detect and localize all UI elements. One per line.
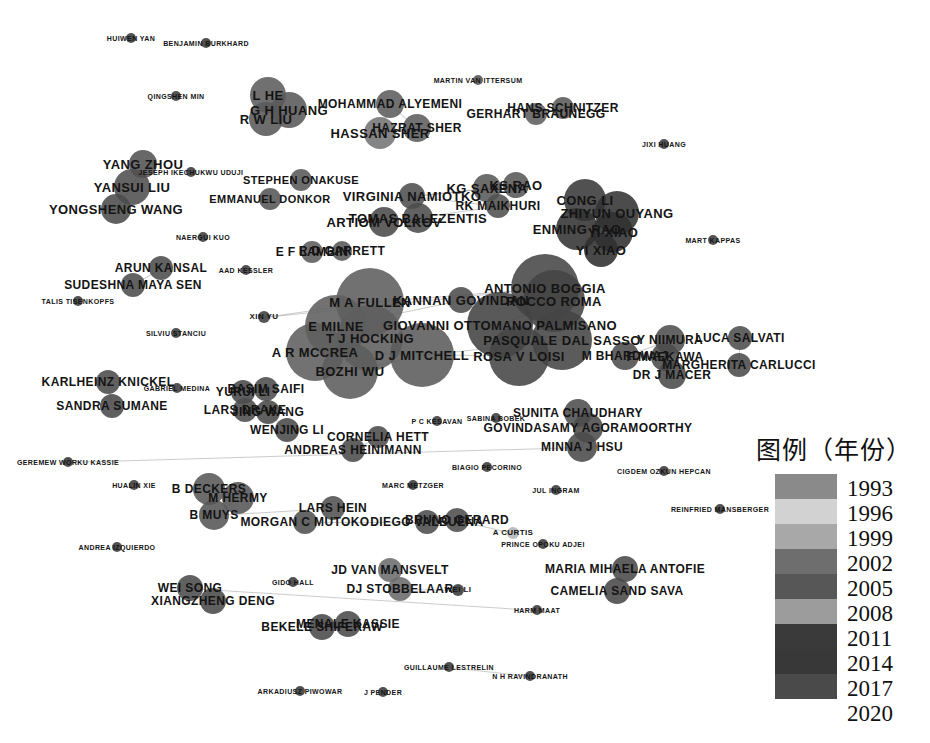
- network-map-canvas: HUIWEN YANBENJAMIN BURKHARDMARTIN VAN IT…: [0, 0, 930, 743]
- network-node[interactable]: [507, 527, 519, 539]
- network-node[interactable]: [171, 328, 181, 338]
- network-node[interactable]: [473, 75, 483, 85]
- network-node[interactable]: [73, 296, 83, 306]
- legend: 图例（年份） 199319961999200220052008201120142…: [744, 430, 924, 726]
- legend-swatch: [775, 524, 837, 549]
- network-node[interactable]: [126, 33, 136, 43]
- legend-color-bar: [775, 474, 837, 726]
- network-node[interactable]: [525, 103, 547, 125]
- network-node[interactable]: [364, 117, 396, 149]
- network-node[interactable]: [322, 343, 378, 399]
- network-node[interactable]: [489, 326, 549, 386]
- legend-year: 2017: [847, 676, 893, 701]
- legend-swatch: [775, 674, 837, 699]
- network-node[interactable]: [177, 575, 203, 601]
- legend-year: 2008: [847, 601, 893, 626]
- network-node[interactable]: [249, 102, 283, 136]
- network-node[interactable]: [584, 233, 618, 267]
- network-node[interactable]: [538, 539, 548, 549]
- network-node[interactable]: [199, 500, 229, 530]
- legend-year: 1999: [847, 526, 893, 551]
- network-node[interactable]: [258, 311, 270, 323]
- network-node[interactable]: [444, 662, 454, 672]
- network-node[interactable]: [172, 383, 182, 393]
- network-node[interactable]: [486, 194, 510, 218]
- network-node[interactable]: [491, 413, 501, 423]
- legend-swatch: [775, 624, 837, 649]
- network-node[interactable]: [369, 207, 399, 237]
- network-node[interactable]: [611, 342, 639, 370]
- network-node[interactable]: [321, 496, 345, 520]
- network-node[interactable]: [604, 578, 630, 604]
- network-node[interactable]: [376, 90, 404, 118]
- legend-year: 2011: [847, 626, 893, 651]
- network-node[interactable]: [708, 235, 718, 245]
- network-node[interactable]: [96, 370, 120, 394]
- network-node[interactable]: [295, 686, 305, 696]
- network-node[interactable]: [129, 480, 139, 490]
- legend-year: 1996: [847, 501, 893, 526]
- network-node[interactable]: [171, 91, 181, 101]
- network-edge: [190, 588, 537, 611]
- network-node[interactable]: [403, 114, 431, 142]
- network-node[interactable]: [378, 687, 388, 697]
- legend-year: 2020: [847, 701, 893, 726]
- network-node[interactable]: [309, 614, 335, 640]
- network-node[interactable]: [445, 508, 469, 532]
- network-node[interactable]: [482, 462, 492, 472]
- network-node[interactable]: [341, 438, 365, 462]
- network-node[interactable]: [288, 577, 298, 587]
- network-node[interactable]: [241, 265, 251, 275]
- network-node[interactable]: [256, 400, 280, 424]
- network-edge: [449, 667, 530, 677]
- legend-year: 2002: [847, 551, 893, 576]
- network-node[interactable]: [101, 194, 131, 224]
- network-node[interactable]: [415, 510, 439, 534]
- network-node[interactable]: [452, 584, 464, 596]
- legend-title: 图例（年份）: [744, 430, 924, 466]
- network-node[interactable]: [198, 232, 208, 242]
- network-node[interactable]: [727, 353, 751, 377]
- network-node[interactable]: [503, 172, 529, 198]
- network-node[interactable]: [293, 510, 317, 534]
- network-node[interactable]: [408, 480, 418, 490]
- network-node[interactable]: [390, 323, 454, 387]
- network-node[interactable]: [532, 605, 542, 615]
- network-node[interactable]: [552, 97, 574, 119]
- network-node[interactable]: [658, 361, 686, 389]
- network-node[interactable]: [367, 426, 389, 448]
- network-node[interactable]: [332, 241, 352, 261]
- network-node[interactable]: [659, 466, 669, 476]
- network-node[interactable]: [275, 418, 299, 442]
- network-edge: [305, 522, 427, 523]
- network-node[interactable]: [121, 273, 145, 297]
- network-node[interactable]: [233, 398, 257, 422]
- network-node[interactable]: [186, 167, 196, 177]
- network-node[interactable]: [388, 577, 412, 601]
- network-node[interactable]: [301, 241, 323, 263]
- network-node[interactable]: [201, 38, 211, 48]
- legend-swatch: [775, 549, 837, 574]
- legend-swatch: [775, 599, 837, 624]
- network-node[interactable]: [403, 203, 433, 233]
- network-node[interactable]: [728, 326, 752, 350]
- legend-swatch: [775, 474, 837, 499]
- network-node[interactable]: [63, 457, 73, 467]
- network-node[interactable]: [149, 256, 173, 280]
- legend-body: 1993199619992002200520082011201420172020: [744, 474, 924, 726]
- network-node[interactable]: [112, 542, 122, 552]
- legend-year: 2014: [847, 651, 893, 676]
- network-node[interactable]: [259, 188, 281, 210]
- network-node[interactable]: [551, 485, 561, 495]
- network-node[interactable]: [254, 377, 278, 401]
- network-node[interactable]: [100, 394, 124, 418]
- network-node[interactable]: [432, 416, 442, 426]
- legend-swatch: [775, 499, 837, 524]
- network-node[interactable]: [715, 504, 725, 514]
- network-node[interactable]: [567, 432, 597, 462]
- network-node[interactable]: [290, 169, 312, 191]
- network-node[interactable]: [200, 588, 226, 614]
- network-node[interactable]: [335, 611, 361, 637]
- network-node[interactable]: [525, 671, 535, 681]
- network-node[interactable]: [659, 139, 669, 149]
